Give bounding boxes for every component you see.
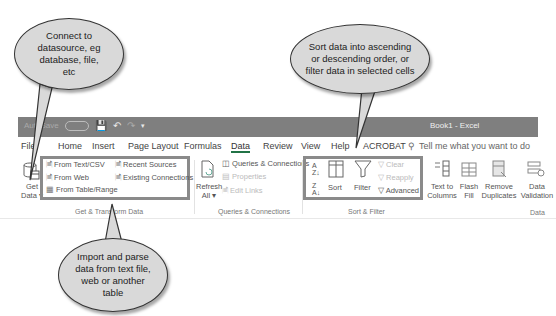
autosave-toggle[interactable]	[65, 121, 89, 131]
sort-button[interactable]: Sort	[326, 160, 346, 200]
callout-connect-text: Connect to datasource, eg database, file…	[34, 30, 104, 78]
text-to-columns-icon	[434, 160, 450, 178]
sort-a-to-z-button[interactable]: AZ↓	[312, 162, 320, 176]
text-to-columns-label: Text toColumns	[426, 182, 458, 200]
recent-icon: 🗎	[115, 160, 121, 169]
edit-links-button[interactable]: 🗎 Edit Links	[222, 185, 263, 198]
group-label-sort-filter: Sort & Filter	[348, 208, 385, 215]
text-to-columns-button[interactable]: Text toColumns	[428, 160, 456, 206]
callout-sort-filter: Sort data into ascending or descending o…	[290, 24, 430, 94]
tell-me-text: Tell me what you want to do	[419, 141, 530, 151]
database-icon	[22, 162, 40, 180]
from-text-csv-button[interactable]: 🗎 From Text/CSV	[46, 159, 105, 172]
sort-dialog-icon	[328, 160, 344, 178]
remove-duplicates-label: RemoveDuplicates	[480, 182, 518, 200]
file-icon: 🗎	[46, 160, 52, 169]
refresh-icon	[200, 160, 216, 178]
from-table-range-button[interactable]: ▦ From Table/Range	[46, 185, 118, 194]
callout-import-text: Import and parse data from text file, we…	[75, 251, 151, 299]
refresh-all-label: RefreshAll ▾	[196, 182, 222, 200]
sort-ascending-icon: AZ↓	[312, 162, 320, 176]
sort-descending-icon: ZA↓	[312, 182, 320, 196]
refresh-all-button[interactable]: RefreshAll ▾	[196, 160, 220, 204]
filter-label: Filter	[354, 183, 371, 192]
tell-me-search[interactable]: ⚲Tell me what you want to do	[408, 141, 530, 151]
queries-pane-icon: ◫	[222, 159, 230, 168]
remove-duplicates-icon	[491, 160, 507, 178]
tab-insert[interactable]: Insert	[92, 141, 115, 151]
properties-button[interactable]: ▤ Properties	[222, 172, 266, 181]
tab-page-layout[interactable]: Page Layout	[128, 141, 179, 151]
window-title: Book1 - Excel	[430, 121, 479, 130]
tab-file[interactable]: File	[21, 141, 36, 151]
autosave-label: AutoSave	[24, 121, 59, 130]
group-label-data-tools: Data	[530, 209, 545, 216]
from-web-button[interactable]: 🗎 From Web	[46, 172, 89, 185]
recent-sources-button[interactable]: 🗎 Recent Sources	[115, 159, 176, 172]
title-bar: AutoSave 💾 ↶ ↷ ▾ Book1 - Excel	[18, 117, 538, 137]
group-label-get-transform: Get & Transform Data	[75, 208, 143, 215]
callout-import: Import and parse data from text file, we…	[58, 238, 168, 312]
filter-funnel-icon	[354, 160, 372, 178]
callout-sort-filter-text: Sort data into ascending or descending o…	[304, 41, 416, 77]
tab-help[interactable]: Help	[331, 141, 350, 151]
clear-filter-icon: ▽	[378, 160, 384, 169]
redo-icon[interactable]: ↷	[127, 120, 135, 131]
tab-home[interactable]: Home	[58, 141, 82, 151]
advanced-filter-icon: ▽	[378, 186, 384, 195]
undo-icon[interactable]: ↶	[113, 120, 121, 131]
tab-view[interactable]: View	[301, 141, 320, 151]
group-label-queries: Queries & Connections	[218, 208, 290, 215]
data-validation-button[interactable]: DataValidation	[518, 160, 554, 206]
clear-filter-button[interactable]: ▽ Clear	[378, 160, 404, 169]
customize-icon[interactable]: ▾	[141, 122, 145, 130]
tab-data[interactable]: Data	[231, 141, 250, 153]
existing-connections-button[interactable]: 🗎 Existing Connections	[115, 172, 193, 185]
flash-fill-icon	[460, 160, 478, 178]
advanced-filter-button[interactable]: ▽ Advanced	[378, 186, 419, 195]
search-icon: ⚲	[408, 141, 415, 151]
get-data-button[interactable]: GetData ▾	[20, 162, 42, 206]
edit-links-icon: 🗎	[222, 186, 228, 195]
flash-fill-button[interactable]: FlashFill	[458, 160, 480, 206]
tab-review[interactable]: Review	[263, 141, 293, 151]
flash-fill-label: FlashFill	[458, 182, 480, 200]
quick-access-toolbar: AutoSave 💾 ↶ ↷ ▾	[24, 120, 145, 131]
web-file-icon: 🗎	[46, 173, 52, 182]
group-separator	[194, 160, 195, 214]
sort-label: Sort	[328, 183, 342, 192]
filter-button[interactable]: Filter	[352, 160, 374, 200]
tab-acrobat[interactable]: ACROBAT	[363, 141, 406, 151]
callout-connect: Connect to datasource, eg database, file…	[14, 18, 124, 90]
connections-icon: 🗎	[115, 173, 121, 182]
sort-z-to-a-button[interactable]: ZA↓	[312, 182, 320, 196]
reapply-button[interactable]: ▽ Reapply	[378, 173, 414, 182]
remove-duplicates-button[interactable]: RemoveDuplicates	[482, 160, 516, 206]
tab-formulas[interactable]: Formulas	[184, 141, 222, 151]
properties-icon: ▤	[222, 172, 230, 181]
save-icon[interactable]: 💾	[95, 120, 107, 131]
ribbon: GetData ▾ 🗎 From Text/CSV 🗎 From Web ▦ F…	[0, 156, 556, 219]
reapply-icon: ▽	[378, 173, 384, 182]
queries-connections-button[interactable]: ◫ Queries & Connections	[222, 159, 309, 168]
data-validation-icon	[527, 160, 545, 178]
table-icon: ▦	[46, 185, 54, 194]
data-validation-label: DataValidation	[518, 182, 556, 200]
